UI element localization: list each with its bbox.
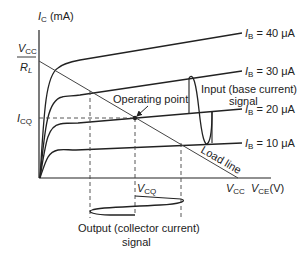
input-signal-label-line1: Input (base current): [201, 83, 297, 95]
load-line: [39, 61, 238, 178]
operating-point-label: Operating point: [113, 93, 188, 105]
input-signal-label-line2: signal: [229, 95, 258, 107]
y-axis-label: IC (mA): [38, 10, 74, 24]
transistor-characteristics-diagram: IC (mA) VCC RL ICQ IB = 40 μA IB = 30 μA…: [0, 0, 302, 260]
output-signal-wave: [90, 199, 183, 215]
vcc-over-rl-numerator: VCC: [18, 42, 37, 56]
vcc-axis-label: VCC: [226, 182, 245, 196]
icq-label: ICQ: [17, 112, 32, 126]
curve-label-ib-40: IB = 40 μA: [245, 27, 296, 41]
operating-point-arrow: [137, 106, 148, 116]
output-signal-label-line2: signal: [122, 236, 151, 248]
curve-label-ib-30: IB = 30 μA: [245, 65, 296, 79]
vcq-label: VCQ: [137, 182, 156, 196]
x-axis-label: VCE(V): [251, 182, 284, 196]
output-signal-baseline: [135, 196, 181, 199]
curve-label-ib-10: IB = 10 μA: [245, 137, 296, 151]
operating-point-dot: [133, 116, 137, 120]
vcc-over-rl-denominator: RL: [20, 61, 32, 75]
load-line-label: Load line: [199, 143, 244, 176]
output-signal-label-line1: Output (collector current): [78, 222, 200, 234]
